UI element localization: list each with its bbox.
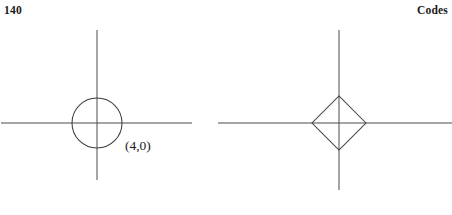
running-head: 140 Codes (0, 0, 452, 22)
page-number: 140 (4, 3, 22, 17)
diamond-figure-drawing (214, 22, 452, 215)
circle-figure-drawing (0, 22, 214, 215)
chapter-title: Codes (417, 3, 448, 17)
figure-diamond: (4,0) (214, 22, 452, 215)
figure-circle: (4,0) (0, 22, 214, 215)
scanned-page: 140 Codes (4,0) (4,0) (0, 0, 452, 215)
coordinate-label-circle: (4,0) (125, 138, 151, 153)
